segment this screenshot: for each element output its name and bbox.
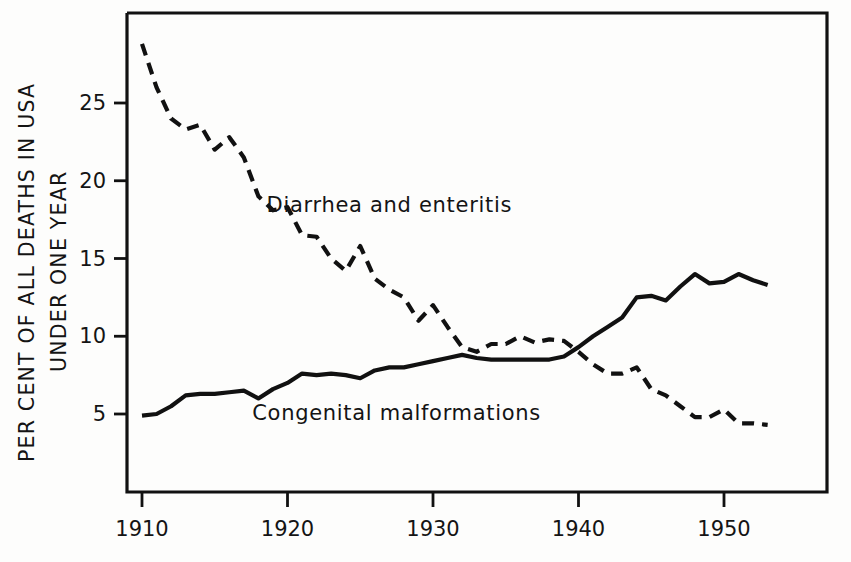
y-axis-title: PER CENT OF ALL DEATHS IN USA UNDER ONE …	[15, 83, 71, 462]
y-axis-tick-label: 25	[79, 91, 106, 115]
line-chart: 510152025 19101920193019401950 Diarrhea …	[0, 0, 851, 562]
y-axis-tick-label: 20	[79, 169, 106, 193]
y-axis-title-line2: UNDER ONE YEAR	[47, 171, 71, 372]
y-axis-title-line1: PER CENT OF ALL DEATHS IN USA	[15, 83, 39, 462]
chart-figure: 510152025 19101920193019401950 Diarrhea …	[0, 0, 851, 562]
y-axis-tick-label: 15	[79, 247, 106, 271]
series-paths	[142, 44, 768, 425]
x-axis-tick-label: 1920	[261, 517, 314, 541]
x-axis-tick-label: 1950	[697, 517, 750, 541]
x-axis-tick-label: 1940	[552, 517, 605, 541]
x-axis-tick-label: 1930	[406, 517, 459, 541]
x-axis-ticks	[142, 492, 724, 507]
y-axis-ticks	[114, 103, 127, 414]
y-axis-tick-label: 10	[79, 324, 106, 348]
x-axis-tick-labels: 19101920193019401950	[115, 517, 750, 541]
series-line-2	[142, 274, 768, 416]
series-annotations: Diarrhea and enteritisCongenital malform…	[252, 193, 541, 425]
series-annotation-2: Congenital malformations	[252, 401, 541, 425]
y-axis-tick-labels: 510152025	[79, 91, 106, 426]
series-annotation-1: Diarrhea and enteritis	[267, 193, 513, 217]
x-axis-tick-label: 1910	[115, 517, 168, 541]
y-axis-tick-label: 5	[93, 402, 106, 426]
series-line-1	[142, 44, 768, 425]
